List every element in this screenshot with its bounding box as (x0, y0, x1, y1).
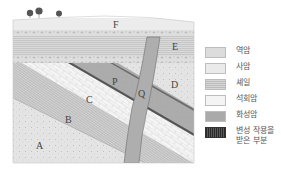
legend-item-metamorphosed: 변성 작용을 받은 부분 (205, 127, 226, 139)
layer-E (13, 36, 194, 57)
legend-label: 화성암 (236, 110, 257, 120)
shale-swatch (205, 79, 226, 90)
legend-item-conglomerate: 역암 (205, 47, 226, 59)
conglomerate-band-lower (13, 56, 194, 63)
sandstone-swatch (205, 63, 226, 74)
label-P: P (112, 76, 118, 87)
tree-icon (56, 11, 62, 17)
conglomerate-swatch (205, 47, 226, 58)
legend-item-sandstone: 사암 (205, 63, 226, 75)
igneous-swatch (205, 111, 226, 122)
metamorphosed-swatch (205, 127, 226, 138)
legend-label: 사암 (236, 62, 250, 72)
label-C: C (86, 94, 93, 105)
label-F: F (113, 19, 119, 30)
legend-item-shale: 셰일 (205, 79, 226, 91)
legend-label: 변성 작용을 받은 부분 (236, 126, 274, 146)
limestone-swatch (205, 95, 226, 106)
conglomerate-band-upper (13, 30, 194, 36)
legend-label-line2: 받은 부분 (236, 136, 267, 145)
label-D: D (171, 79, 178, 90)
tree-icon (35, 7, 42, 14)
legend-item-limestone: 석회암 (205, 95, 226, 107)
legend-label: 석회암 (236, 94, 257, 104)
legend-label: 셰일 (236, 78, 250, 88)
legend-label: 역암 (236, 46, 250, 56)
tree-icon (27, 10, 33, 16)
legend-label-line1: 변성 작용을 (236, 126, 274, 135)
legend-item-igneous: 화성암 (205, 111, 226, 123)
label-A: A (36, 140, 44, 151)
trees (27, 7, 62, 18)
label-Q: Q (138, 88, 146, 99)
label-B: B (65, 114, 72, 125)
label-E: E (172, 41, 178, 52)
